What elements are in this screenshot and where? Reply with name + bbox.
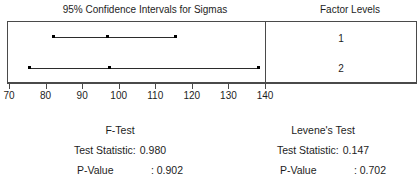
ci-lower-marker-1: [52, 35, 55, 38]
x-axis-tick: [192, 83, 193, 89]
ci-line-2: [30, 68, 258, 69]
levene-test-pvalue-value: : 0.702: [354, 160, 386, 180]
levene-test-pvalue-label: P-Value: [280, 160, 354, 180]
levene-test-block: Levene's Test Test Statistic: 0.147 P-Va…: [228, 120, 418, 180]
x-axis-tick: [119, 83, 120, 89]
x-axis-tick-label: 80: [31, 90, 61, 102]
factor-level-label-1: 1: [265, 33, 417, 44]
ci-lower-marker-2: [28, 66, 31, 69]
x-axis-tick-label: 120: [177, 90, 207, 102]
x-axis-tick: [155, 83, 156, 89]
x-axis-tick-label: 90: [67, 90, 97, 102]
levene-test-statistic-value: 0.147: [343, 140, 369, 160]
f-test-block: F-Test Test Statistic: 0.980 P-Value : 0…: [20, 120, 220, 180]
f-test-pvalue-row: P-Value : 0.902: [20, 160, 220, 180]
x-axis-tick: [228, 83, 229, 89]
x-axis-tick: [265, 83, 266, 89]
x-axis-tick-label: 100: [104, 90, 134, 102]
x-axis-line: [7, 83, 417, 84]
f-test-pvalue-value: : 0.902: [151, 160, 183, 180]
chart-title: 95% Confidence Intervals for Sigmas: [40, 4, 250, 16]
x-axis-tick: [46, 83, 47, 89]
ci-upper-marker-1: [174, 35, 177, 38]
levene-test-name: Levene's Test: [228, 120, 418, 140]
x-axis-tick: [82, 83, 83, 89]
x-axis-tick: [9, 83, 10, 89]
x-axis-tick-label: 130: [213, 90, 243, 102]
f-test-statistic-label: Test Statistic:: [74, 140, 136, 160]
f-test-statistic-value: 0.980: [140, 140, 166, 160]
ci-upper-marker-2: [257, 66, 260, 69]
f-test-pvalue-label: P-Value: [77, 160, 151, 180]
ci-line-1: [54, 37, 175, 38]
f-test-name: F-Test: [20, 120, 220, 140]
x-axis-tick-label: 70: [0, 90, 24, 102]
levene-test-statistic-row: Test Statistic: 0.147: [228, 140, 418, 160]
chart-canvas: 95% Confidence Intervals for Sigmas Fact…: [0, 0, 420, 193]
levene-test-pvalue-row: P-Value : 0.702: [228, 160, 418, 180]
ci-center-marker-1: [106, 35, 109, 38]
x-axis-tick-label: 140: [250, 90, 280, 102]
x-axis-tick-label: 110: [140, 90, 170, 102]
factor-levels-title: Factor Levels: [300, 4, 400, 16]
f-test-statistic-row: Test Statistic: 0.980: [20, 140, 220, 160]
ci-center-marker-2: [108, 66, 111, 69]
levene-test-statistic-label: Test Statistic:: [277, 140, 339, 160]
factor-level-label-2: 2: [265, 63, 417, 74]
